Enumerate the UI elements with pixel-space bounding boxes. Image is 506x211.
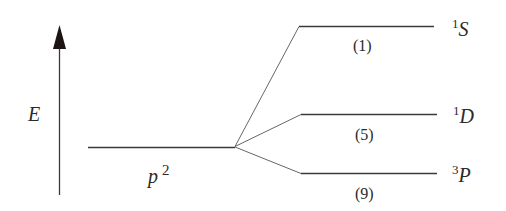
- configuration-label: p2: [146, 162, 170, 188]
- term-letter-3P: P: [458, 164, 471, 186]
- arrowhead-icon: [53, 25, 66, 49]
- connector-1D: [235, 115, 301, 147]
- degeneracy-1S: (1): [353, 37, 372, 55]
- connector-1S: [235, 27, 299, 147]
- energy-level-diagram: E p2 (1) 1S (5) 1D (9) 3P: [0, 0, 506, 211]
- degeneracy-1D: (5): [355, 126, 374, 144]
- connector-3P: [235, 147, 301, 174]
- degeneracy-3P: (9): [355, 185, 374, 203]
- term-letter-1S: S: [459, 18, 469, 40]
- term-label-1S: 1S: [452, 16, 469, 40]
- configuration-superscript: 2: [162, 162, 170, 178]
- term-label-1D: 1D: [453, 103, 475, 127]
- term-label-3P: 3P: [452, 162, 471, 186]
- configuration-symbol: p: [146, 165, 158, 188]
- term-letter-1D: D: [459, 105, 475, 127]
- energy-axis-label: E: [27, 103, 40, 125]
